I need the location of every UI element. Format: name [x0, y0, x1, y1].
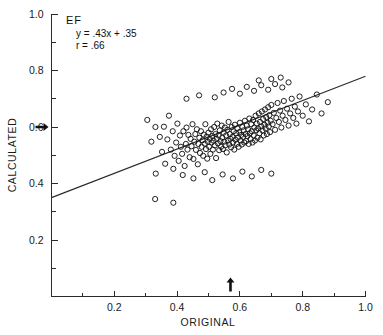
data-point	[196, 93, 201, 98]
x-tick-label: 0.4	[170, 301, 185, 313]
data-point	[272, 127, 277, 132]
data-point	[275, 100, 280, 105]
data-point	[166, 113, 171, 118]
x-tick-label: 0.8	[295, 301, 310, 313]
x-tick-label: 0.6	[233, 301, 248, 313]
data-point	[303, 102, 308, 107]
data-point	[213, 155, 218, 160]
data-point	[269, 171, 274, 176]
data-point	[279, 125, 284, 130]
data-point	[184, 125, 189, 130]
data-point	[190, 122, 195, 127]
data-point	[244, 84, 249, 89]
data-point	[197, 150, 202, 155]
scatter-plot-canvas: 0.20.40.60.81.0 0.20.40.60.81.0 EF y = .…	[0, 0, 383, 335]
data-point	[175, 121, 180, 126]
data-point	[261, 133, 266, 138]
data-point	[180, 172, 185, 177]
data-point	[230, 176, 235, 181]
data-point	[176, 158, 181, 163]
x-axis-ticks	[83, 291, 366, 297]
data-point	[163, 161, 168, 166]
y-axis-title: CALCULATED	[6, 118, 18, 193]
data-point	[202, 170, 207, 175]
data-point	[212, 95, 217, 100]
data-point	[259, 167, 264, 172]
data-point	[182, 163, 187, 168]
data-point	[291, 115, 296, 120]
data-point	[249, 174, 254, 179]
data-point	[276, 119, 281, 124]
data-point	[174, 140, 179, 145]
data-point	[153, 196, 158, 201]
data-point	[165, 137, 170, 142]
data-point	[149, 139, 154, 144]
data-point	[306, 119, 311, 124]
data-point	[286, 80, 291, 85]
y-axis-ticks	[52, 14, 58, 268]
data-point	[278, 75, 283, 80]
data-point	[289, 96, 294, 101]
data-point	[280, 85, 285, 90]
data-point	[292, 104, 297, 109]
data-point	[266, 87, 271, 92]
data-point	[237, 91, 242, 96]
data-point	[294, 121, 299, 126]
data-point	[205, 156, 210, 161]
data-point	[157, 134, 162, 139]
data-point	[226, 119, 231, 124]
data-point	[300, 113, 305, 118]
data-point	[191, 176, 196, 181]
data-point	[153, 124, 158, 129]
data-point	[220, 172, 225, 177]
data-point	[256, 78, 261, 83]
y-tick-label: 0.8	[29, 64, 44, 76]
data-point	[319, 111, 324, 116]
x-axis-title: ORIGINAL	[181, 316, 236, 328]
data-point	[221, 90, 226, 95]
data-point	[297, 94, 302, 99]
data-point	[161, 124, 166, 129]
x-axis-tick-labels: 0.20.40.60.81.0	[107, 301, 373, 313]
data-point	[224, 150, 229, 155]
data-point	[145, 117, 150, 122]
annotation-correlation: r = .66	[76, 40, 105, 51]
data-point	[203, 122, 208, 127]
data-point	[251, 88, 256, 93]
data-point	[153, 171, 158, 176]
scatter-points-group	[145, 75, 331, 205]
x-axis-mean-arrow-icon	[226, 278, 234, 292]
annotation-equation: y = .43x + .35	[76, 28, 137, 39]
data-point	[184, 96, 189, 101]
data-point	[180, 151, 185, 156]
reference-arrow-markers	[36, 123, 235, 292]
x-tick-label: 0.2	[107, 301, 122, 313]
data-point	[195, 162, 200, 167]
data-point	[171, 166, 176, 171]
data-point	[210, 178, 215, 183]
x-tick-label: 1.0	[358, 301, 373, 313]
data-point	[283, 117, 288, 122]
data-point	[172, 153, 177, 158]
chart-figure: 0.20.40.60.81.0 0.20.40.60.81.0 EF y = .…	[0, 0, 383, 335]
data-point	[310, 107, 315, 112]
data-point	[286, 123, 291, 128]
data-point	[171, 200, 176, 205]
y-tick-label: 1.0	[29, 8, 44, 20]
y-tick-label: 0.2	[29, 234, 44, 246]
data-point	[269, 76, 274, 81]
y-tick-label: 0.4	[29, 177, 44, 189]
data-point	[295, 109, 300, 114]
data-point	[240, 169, 245, 174]
data-point	[281, 98, 286, 103]
data-point	[170, 129, 175, 134]
annotation-group-label: EF	[66, 14, 82, 26]
data-point	[325, 100, 330, 105]
data-point	[159, 149, 164, 154]
data-point	[229, 86, 234, 91]
data-point	[272, 81, 277, 86]
